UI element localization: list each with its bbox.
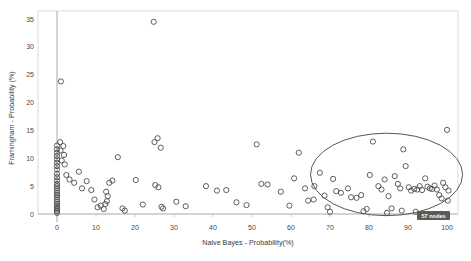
x-tick-label: 70 xyxy=(326,224,334,231)
scatter-plot-figure: 05101520253035 0102030405060708090100 Fr… xyxy=(0,0,471,261)
y-tick-label: 35 xyxy=(26,16,34,23)
y-tick-label: 5 xyxy=(30,183,34,190)
x-tick-label: 0 xyxy=(55,224,59,231)
y-axis-title: Framingham - Probability (%) xyxy=(7,71,16,164)
y-tick-label: 15 xyxy=(26,127,34,134)
badge-label: 57 nodes xyxy=(421,213,445,219)
chart-canvas: 05101520253035 0102030405060708090100 Fr… xyxy=(0,0,471,261)
x-tick-label: 20 xyxy=(131,224,139,231)
y-tick-label: 30 xyxy=(26,43,34,50)
x-tick-label: 80 xyxy=(365,224,373,231)
x-tick-label: 40 xyxy=(209,224,217,231)
x-axis-ticks: 0102030405060708090100 xyxy=(55,214,453,231)
y-axis-ticks: 05101520253035 xyxy=(26,16,34,218)
x-tick-label: 50 xyxy=(248,224,256,231)
x-tick-label: 60 xyxy=(287,224,295,231)
y-tick-label: 25 xyxy=(26,71,34,78)
y-tick-label: 0 xyxy=(30,211,34,218)
y-tick-label: 10 xyxy=(26,155,34,162)
y-tick-label: 20 xyxy=(26,99,34,106)
x-axis-title: Naive Bayes - Probability(%) xyxy=(202,238,293,247)
x-tick-label: 10 xyxy=(92,224,100,231)
x-tick-label: 90 xyxy=(404,224,412,231)
x-tick-label: 30 xyxy=(170,224,178,231)
x-tick-label: 100 xyxy=(441,224,453,231)
node-count-badge: 57 nodes xyxy=(417,211,450,220)
